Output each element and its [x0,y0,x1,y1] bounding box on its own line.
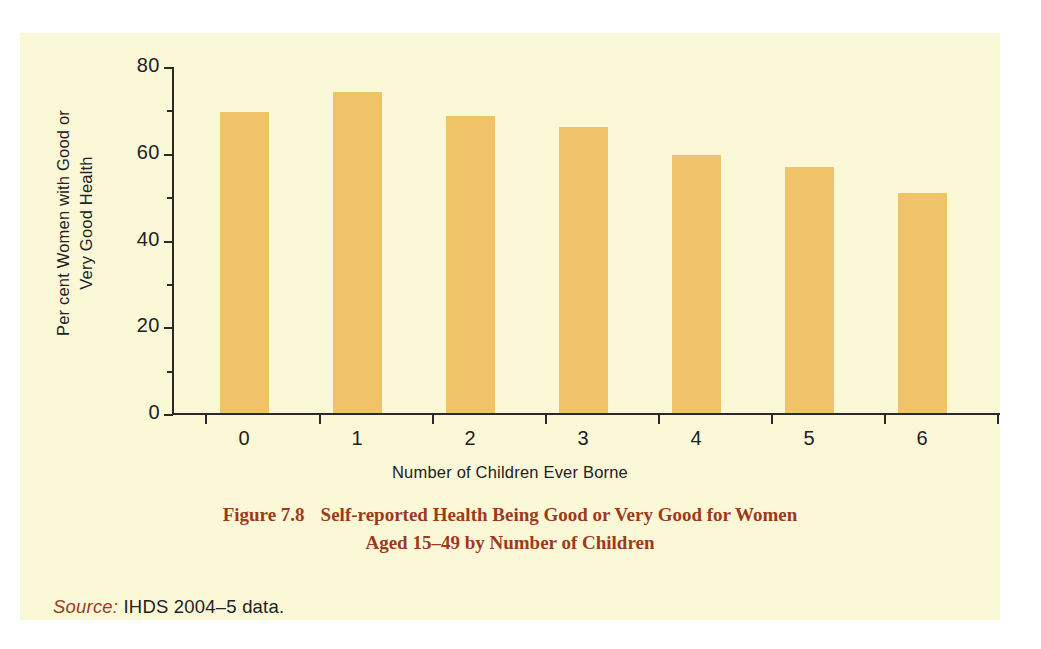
x-tick-boundary-5 [771,415,773,424]
figure-panel: Per cent Women with Good or Very Good He… [20,33,1000,620]
y-tick-label-60: 60 [114,141,160,164]
figure-caption-line-2: Aged 15–49 by Number of Children [20,529,1000,557]
x-tick-boundary-7 [997,415,999,424]
y-tick-80 [164,67,173,69]
x-tick-label-5: 5 [779,427,839,450]
y-tick-0 [164,414,173,416]
x-tick-label-3: 3 [553,427,613,450]
y-tick-60 [164,154,173,156]
chart-plot-area: Per cent Women with Good or Very Good He… [20,33,1000,453]
x-axis-line [172,413,1000,415]
y-tick-label-20: 20 [114,314,160,337]
y-tick-20 [164,327,173,329]
x-tick-boundary-0 [205,415,207,424]
x-axis-title: Number of Children Ever Borne [20,463,1000,482]
bar-4[interactable] [672,155,721,413]
y-tick-label-40: 40 [114,228,160,251]
x-tick-boundary-2 [432,415,434,424]
y-axis-title-line-2: Very Good Health [75,156,98,289]
bar-3[interactable] [559,127,608,413]
bar-2[interactable] [446,116,495,413]
bar-6[interactable] [898,193,947,413]
x-tick-boundary-3 [545,415,547,424]
figure-caption: Figure 7.8Self-reported Health Being Goo… [20,501,1000,556]
x-tick-label-4: 4 [666,427,726,450]
bar-1[interactable] [333,92,382,413]
y-tick-label-80: 80 [114,54,160,77]
x-tick-label-0: 0 [214,427,274,450]
y-tick-minor-10 [167,371,173,373]
y-tick-label-0: 0 [114,401,160,424]
figure-caption-line-1: Figure 7.8Self-reported Health Being Goo… [20,501,1000,529]
x-tick-boundary-4 [658,415,660,424]
y-tick-minor-50 [167,197,173,199]
x-tick-label-6: 6 [892,427,952,450]
x-tick-boundary-1 [319,415,321,424]
y-tick-40 [164,241,173,243]
bar-0[interactable] [220,112,269,413]
x-tick-boundary-6 [884,415,886,424]
source-label: Source: [53,596,118,617]
y-axis-title: Per cent Women with Good or Very Good He… [45,63,105,383]
y-axis-title-line-1: Per cent Women with Good or [52,110,75,336]
source-text: IHDS 2004–5 data. [124,596,285,617]
figure-caption-text-1: Self-reported Health Being Good or Very … [321,504,798,525]
x-tick-label-1: 1 [327,427,387,450]
y-tick-minor-30 [167,284,173,286]
x-tick-label-2: 2 [440,427,500,450]
figure-number: Figure 7.8 [223,504,305,525]
figure-source: Source: IHDS 2004–5 data. [53,596,284,618]
bar-5[interactable] [785,167,834,413]
y-tick-minor-70 [167,110,173,112]
